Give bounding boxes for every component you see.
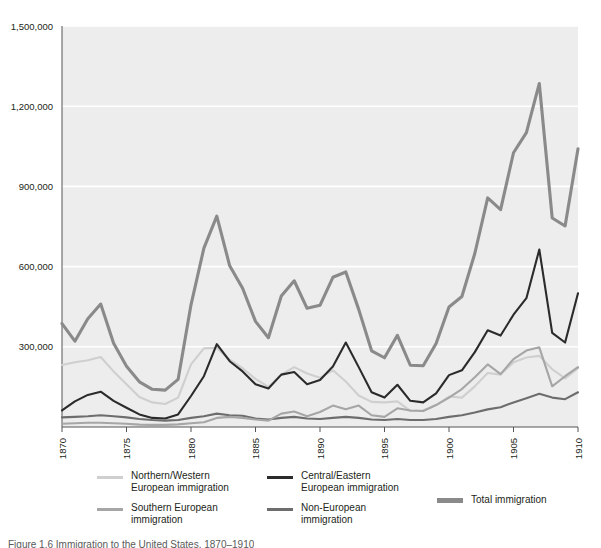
x-axis-tick-label: 1910 xyxy=(573,438,584,459)
legend-item-northern-western: Northern/Western European immigration xyxy=(97,470,257,493)
x-axis-tick-label: 1905 xyxy=(508,438,519,459)
x-axis-tick-label: 1890 xyxy=(315,438,326,459)
chart-plot-area: 1,500,0001,200,000900,000600,000300,0001… xyxy=(0,0,601,470)
legend-label-non-european: Non-European immigration xyxy=(301,502,366,525)
x-axis-tick-label: 1885 xyxy=(250,438,261,459)
legend-swatch-total-icon xyxy=(437,498,463,503)
legend-item-southern: Southern European immigration xyxy=(97,502,257,525)
y-axis-tick-label: 600,000 xyxy=(19,261,53,272)
y-axis-tick-label: 1,500,000 xyxy=(11,21,53,32)
legend-label-southern: Southern European immigration xyxy=(131,502,218,525)
x-axis-tick-label: 1895 xyxy=(379,438,390,459)
legend-item-non-european: Non-European immigration xyxy=(267,502,427,525)
x-axis-tick-label: 1880 xyxy=(186,438,197,459)
legend-label-central-eastern: Central/Eastern European immigration xyxy=(301,470,399,493)
x-axis-tick-label: 1900 xyxy=(444,438,455,459)
figure-immigration-chart: 1,500,0001,200,000900,000600,000300,0001… xyxy=(0,0,601,548)
y-axis-tick-label: 900,000 xyxy=(19,181,53,192)
legend-column-1: Northern/Western European immigration So… xyxy=(97,470,257,534)
chart-legend: Northern/Western European immigration So… xyxy=(0,470,601,530)
legend-label-total: Total immigration xyxy=(471,494,547,506)
legend-swatch-central-eastern-icon xyxy=(267,476,293,479)
legend-column-2: Central/Eastern European immigration Non… xyxy=(267,470,427,534)
y-axis-tick-label: 1,200,000 xyxy=(11,101,53,112)
plot-background xyxy=(62,26,578,427)
line-chart-svg: 1,500,0001,200,000900,000600,000300,0001… xyxy=(0,0,601,470)
legend-swatch-northern-western-icon xyxy=(97,476,123,479)
legend-item-total: Total immigration xyxy=(437,494,601,506)
legend-column-3: Total immigration xyxy=(437,470,601,515)
legend-label-northern-western: Northern/Western European immigration xyxy=(131,470,229,493)
legend-swatch-southern-icon xyxy=(97,508,123,511)
legend-swatch-non-european-icon xyxy=(267,508,293,511)
legend-item-central-eastern: Central/Eastern European immigration xyxy=(267,470,427,493)
y-axis-tick-label: 300,000 xyxy=(19,341,53,352)
x-axis-tick-label: 1870 xyxy=(57,438,68,459)
figure-caption: Figure 1.6 Immigration to the United Sta… xyxy=(8,539,254,548)
x-axis-tick-label: 1875 xyxy=(121,438,132,459)
